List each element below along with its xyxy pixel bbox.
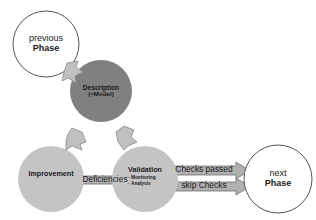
- node-next-phase[interactable]: [244, 145, 312, 213]
- arrow-checks-passed-shape: [170, 162, 250, 179]
- arrow-checks-passed[interactable]: [170, 162, 250, 179]
- process-diagram: [0, 0, 316, 220]
- arrow-description-to-improvement-shape: [66, 128, 86, 150]
- arrow-skip-checks[interactable]: [170, 178, 250, 195]
- node-validation[interactable]: [112, 146, 178, 212]
- arrow-skip-checks-shape: [170, 178, 250, 195]
- node-improvement[interactable]: [18, 146, 84, 212]
- arrow-description-to-validation[interactable]: [116, 126, 137, 150]
- arrow-description-to-improvement[interactable]: [66, 128, 86, 150]
- arrow-description-to-validation-shape: [116, 126, 137, 150]
